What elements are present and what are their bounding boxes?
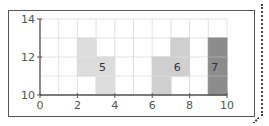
grid	[40, 19, 227, 95]
shape-label-7: 7	[211, 61, 218, 74]
x-tick-label: 4	[111, 99, 118, 112]
y-tick-label: 14	[21, 13, 35, 26]
shape-label-5: 5	[99, 61, 106, 74]
labels: 5670246810101214	[21, 13, 234, 112]
x-tick-label: 6	[149, 99, 156, 112]
x-tick-label: 2	[74, 99, 81, 112]
x-tick-label: 0	[37, 99, 44, 112]
y-tick-label: 10	[21, 89, 35, 102]
axes	[37, 19, 227, 98]
shape-label-6: 6	[174, 61, 181, 74]
x-tick-label: 10	[220, 99, 234, 112]
y-tick-label: 12	[21, 51, 35, 64]
x-tick-label: 8	[186, 99, 193, 112]
chart: 5670246810101214	[0, 0, 269, 126]
